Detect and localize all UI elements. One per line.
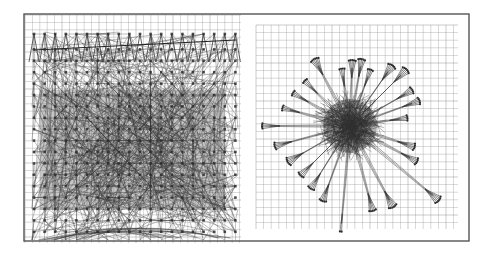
graph-layout-figure bbox=[0, 0, 490, 254]
figure-canvas bbox=[0, 0, 490, 254]
